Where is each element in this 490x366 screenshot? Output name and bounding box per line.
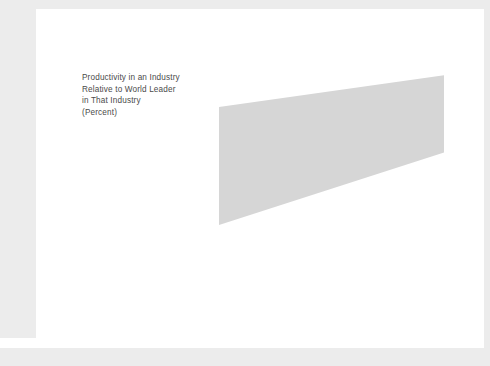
band-polygon	[219, 75, 444, 225]
confidence-band	[219, 75, 444, 225]
scatter-chart	[0, 0, 490, 366]
